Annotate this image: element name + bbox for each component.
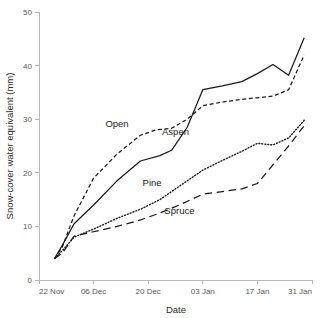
y-tick-label: 10 <box>23 222 32 231</box>
x-tick-label: 03 Jan <box>191 287 215 296</box>
y-tick-label: 20 <box>23 169 32 178</box>
y-tick-label: 50 <box>23 8 32 17</box>
series-label-pine: Pine <box>143 177 162 188</box>
y-tick-label: 40 <box>23 62 32 71</box>
y-axis-ticks: 01020304050 <box>23 8 39 285</box>
series-label-open: Open <box>105 118 128 129</box>
series-lines <box>55 38 305 259</box>
series-label-aspen: Aspen <box>162 126 189 137</box>
x-axis-title: Date <box>166 304 186 315</box>
x-tick-label: 17 Jan <box>245 287 269 296</box>
series-line-open <box>55 55 305 259</box>
x-axis-ticks: 22 Nov06 Dec20 Dec03 Jan17 Jan31 Jan <box>39 280 312 296</box>
series-line-spruce <box>55 126 305 259</box>
y-axis-title: Snow-cover water equivalent (mm) <box>4 73 15 220</box>
y-tick-label: 0 <box>28 276 33 285</box>
x-tick-label: 06 Dec <box>81 287 106 296</box>
x-tick-label: 20 Dec <box>136 287 161 296</box>
plot-axes <box>39 12 312 280</box>
chart-svg: 01020304050 22 Nov06 Dec20 Dec03 Jan17 J… <box>0 0 329 318</box>
series-label-spruce: Spruce <box>164 205 194 216</box>
snow-cover-line-chart: 01020304050 22 Nov06 Dec20 Dec03 Jan17 J… <box>0 0 329 318</box>
series-line-aspen <box>55 38 305 259</box>
series-line-pine <box>55 120 305 258</box>
series-annotations: OpenAspenPineSpruce <box>105 118 194 216</box>
x-tick-label: 22 Nov <box>39 287 64 296</box>
y-tick-label: 30 <box>23 115 32 124</box>
x-tick-label: 31 Jan <box>288 287 312 296</box>
